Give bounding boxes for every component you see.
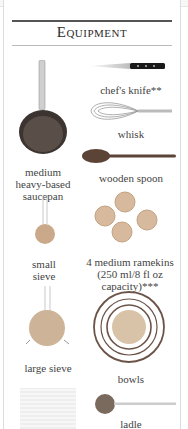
equipment-page: Equipment chef's knife** medium heavy-ba… [3, 0, 181, 429]
item-label-whisk: whisk [86, 128, 176, 140]
item-label-chefs-knife: chef's knife** [86, 84, 176, 96]
small-sieve-icon [32, 196, 58, 246]
knife-icon [88, 60, 168, 72]
whisk-icon [88, 100, 174, 122]
large-sieve-icon [26, 286, 70, 348]
item-label-large-sieve: large sieve [8, 362, 88, 374]
ramekins-icon [92, 190, 162, 250]
saucepan-icon [16, 60, 72, 155]
title-rule-bottom [12, 45, 172, 46]
ladle-icon [94, 393, 178, 415]
item-label-ladle: ladle [86, 418, 176, 429]
page-title: Equipment [4, 24, 180, 41]
item-label-small-sieve: small sieve [14, 258, 74, 282]
item-label-ramekins: 4 medium ramekins (250 ml/8 fl oz capaci… [80, 256, 180, 292]
bowls-icon [92, 290, 166, 364]
title-rule-top [12, 20, 172, 22]
item-label-wooden-spoon: wooden spoon [86, 172, 176, 184]
muslin-cloth-icon [20, 388, 76, 429]
item-label-bowls: bowls [86, 373, 176, 385]
wooden-spoon-icon [82, 148, 178, 164]
